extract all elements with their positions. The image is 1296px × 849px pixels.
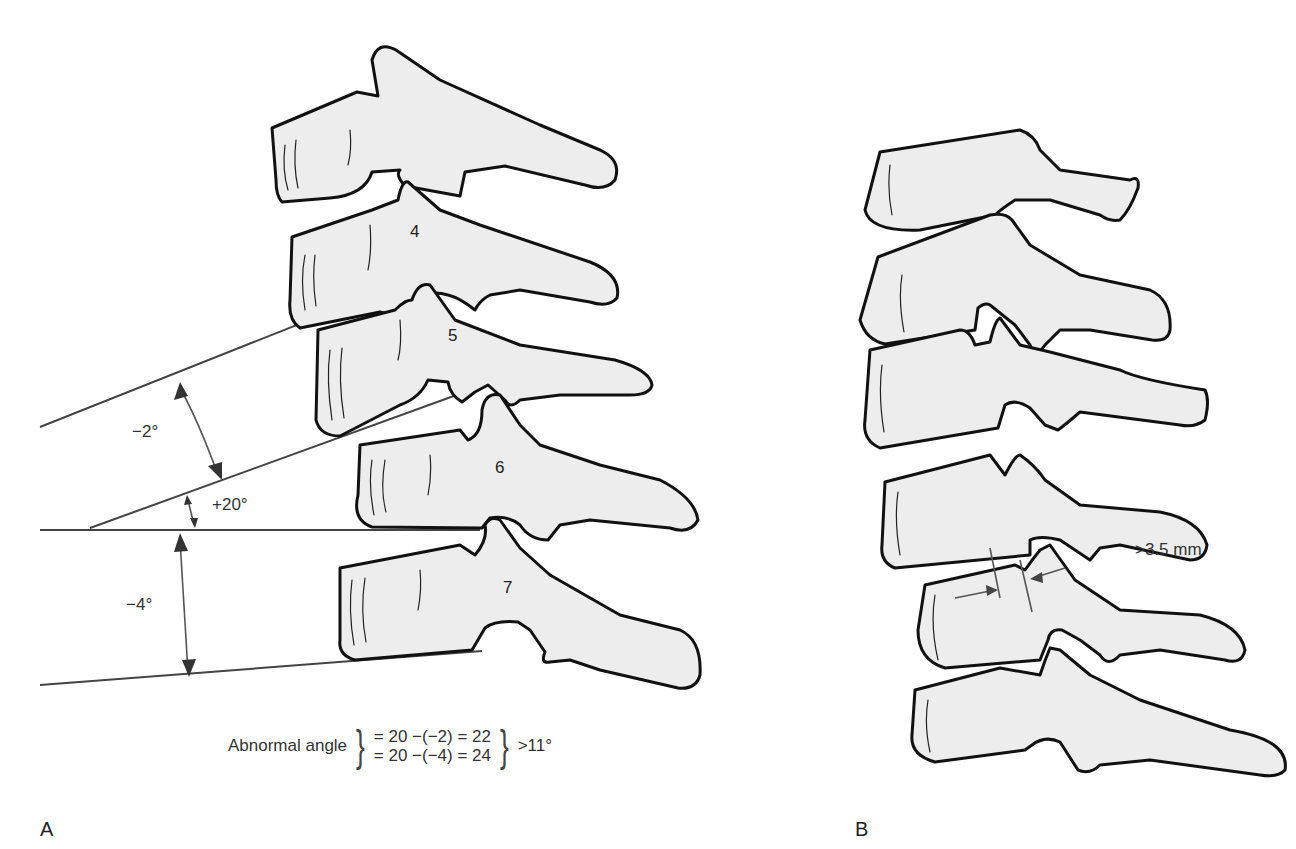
vertebra-c4 [290,182,618,328]
formula-result: >11° [518,736,552,756]
left-brace-icon: } [356,726,365,766]
formula-prefix: Abnormal angle [228,736,347,756]
vertebra-c6 [357,395,698,540]
panel-b-vertebrae [860,130,1285,776]
vertebra-c7 [340,518,700,688]
panel-label-a: A [40,818,53,841]
formula-line-2: = 20 −(−4) = 24 [374,746,491,765]
angle-label-middle: +20° [212,495,248,515]
translation-label: >3.5 mm [1135,540,1202,560]
panel-label-b: B [855,818,868,841]
vertebra-b5 [918,545,1245,668]
vertebra-c3 [272,47,617,202]
vertebra-label-7: 7 [503,578,512,598]
formula-lines: = 20 −(−2) = 22 = 20 −(−4) = 24 [374,727,491,765]
vertebra-b2 [860,214,1170,352]
vertebra-label-5: 5 [448,326,457,346]
formula-line-1: = 20 −(−2) = 22 [374,727,491,746]
angle-label-lower: −4° [126,595,152,615]
abnormal-angle-formula: Abnormal angle } = 20 −(−2) = 22 = 20 −(… [228,726,552,766]
angle-label-upper: −2° [132,422,158,442]
vertebra-label-6: 6 [495,458,504,478]
right-brace-icon: } [500,726,509,766]
vertebra-label-4: 4 [410,222,419,242]
spine-illustration [0,0,1296,849]
panel-a-vertebrae [272,47,700,689]
